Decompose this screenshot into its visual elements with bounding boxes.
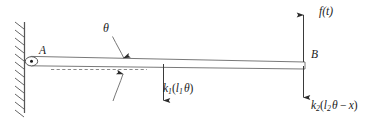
label-applied-force-ft: f(t) <box>319 6 333 18</box>
pivot-center-dot <box>30 60 33 63</box>
label-spring-force-k2: k2(l2 θ − x) <box>311 100 358 112</box>
label-point-A: A <box>39 45 46 57</box>
k1-subscript: 1 <box>168 87 172 96</box>
rigid-beam <box>31 56 305 69</box>
k1-paren-close: ) <box>190 82 194 94</box>
k2-subscript: 2 <box>316 104 320 113</box>
k2-arg-minus: − <box>340 99 347 111</box>
k2-arg-subscript: 2 <box>327 104 331 113</box>
wall-hatching <box>15 22 24 117</box>
beam-body <box>31 56 305 69</box>
k2-arg-theta: θ <box>332 99 338 111</box>
label-point-B: B <box>311 49 318 61</box>
angle-theta-indicator <box>113 37 124 102</box>
theta-upper-arrow <box>113 37 124 59</box>
pin-joint-A <box>25 57 37 66</box>
theta-lower-arrow <box>113 74 123 101</box>
wall-support <box>15 22 25 117</box>
label-angle-theta: θ <box>103 22 109 34</box>
figure-canvas: A B θ f(t) k1(l1 θ) k2(l2 θ − x) <box>0 0 379 127</box>
k1-arg-subscript: 1 <box>179 87 183 96</box>
label-spring-force-k1: k1(l1 θ) <box>163 83 193 95</box>
k2-paren-close: ) <box>354 99 358 111</box>
